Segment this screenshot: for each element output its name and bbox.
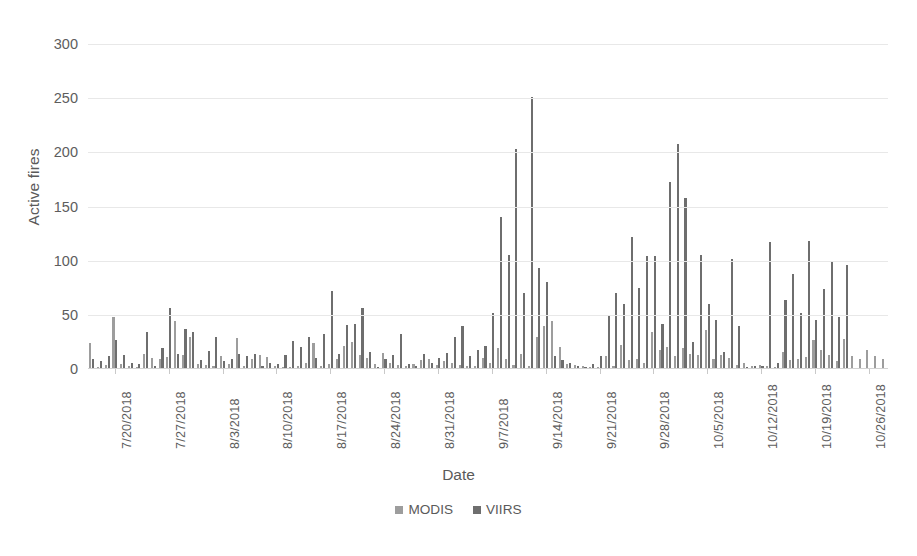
- bar-viirs: [461, 326, 463, 369]
- x-axis-tick-labels: 7/20/20187/27/20188/3/20188/10/20188/17/…: [88, 377, 888, 457]
- legend-item-modis[interactable]: MODIS: [395, 502, 453, 517]
- bar-viirs: [508, 255, 510, 369]
- gridline: [88, 98, 888, 99]
- x-axis-tick-label: 9/7/2018: [497, 398, 511, 449]
- bar-viirs: [292, 341, 294, 369]
- bar-modis: [812, 340, 814, 369]
- bar-viirs: [523, 293, 525, 369]
- x-axis-tick-mark: [384, 369, 385, 374]
- bar-viirs: [677, 144, 679, 369]
- x-axis-tick-label: 10/19/2018: [820, 384, 834, 449]
- x-axis-tick-mark: [115, 369, 116, 374]
- bar-viirs: [169, 308, 171, 369]
- legend-item-viirs[interactable]: VIIRS: [473, 502, 522, 517]
- bar-viirs: [815, 320, 817, 369]
- x-axis-tick-label: 9/14/2018: [551, 391, 565, 449]
- legend-label: VIIRS: [486, 502, 522, 517]
- bar-modis: [828, 355, 830, 369]
- bar-viirs: [708, 304, 710, 369]
- x-axis-tick-mark: [815, 369, 816, 374]
- bar-viirs: [423, 354, 425, 369]
- bar-viirs: [515, 149, 517, 369]
- bar-modis: [112, 317, 114, 369]
- bar-viirs: [308, 337, 310, 370]
- gridline: [88, 315, 888, 316]
- bar-modis: [697, 355, 699, 369]
- x-axis-tick-marks: [88, 369, 888, 375]
- bar-viirs: [669, 182, 671, 369]
- y-axis-title: Active fires: [25, 107, 43, 267]
- bar-viirs: [484, 346, 486, 369]
- x-axis-tick-mark: [276, 369, 277, 374]
- bar-modis: [536, 337, 538, 370]
- plot-area: [88, 44, 888, 369]
- legend-swatch-icon: [395, 506, 403, 514]
- bar-viirs: [638, 288, 640, 369]
- x-axis-tick-mark: [438, 369, 439, 374]
- bar-modis: [659, 350, 661, 370]
- x-axis-tick-mark: [653, 369, 654, 374]
- x-axis-tick-label: 8/10/2018: [281, 391, 295, 449]
- bar-viirs: [161, 348, 163, 369]
- bar-modis: [689, 354, 691, 369]
- bar-modis: [666, 347, 668, 369]
- bar-viirs: [338, 354, 340, 369]
- bar-viirs: [300, 347, 302, 369]
- bar-viirs: [215, 337, 217, 370]
- bar-modis: [259, 355, 261, 369]
- bar-viirs: [792, 274, 794, 369]
- bar-viirs: [608, 315, 610, 369]
- bar-viirs: [361, 308, 363, 369]
- x-axis-tick-mark: [546, 369, 547, 374]
- y-axis-tick-label: 250: [16, 91, 78, 106]
- x-axis-tick-label: 8/31/2018: [443, 391, 457, 449]
- y-axis-tick-label: 0: [16, 362, 78, 377]
- bar-viirs: [354, 324, 356, 370]
- bar-viirs: [369, 352, 371, 369]
- bar-modis: [189, 337, 191, 370]
- bar-modis: [620, 345, 622, 369]
- bar-viirs: [346, 325, 348, 369]
- bar-viirs: [254, 354, 256, 369]
- bar-modis: [543, 326, 545, 369]
- bar-viirs: [477, 350, 479, 370]
- bar-viirs: [192, 332, 194, 369]
- bar-modis: [143, 354, 145, 369]
- x-axis-tick-mark: [761, 369, 762, 374]
- bar-modis: [843, 339, 845, 369]
- bar-modis: [351, 342, 353, 369]
- x-axis-tick-mark: [707, 369, 708, 374]
- bar-viirs: [661, 324, 663, 370]
- bar-modis: [382, 353, 384, 369]
- bar-viirs: [654, 256, 656, 369]
- y-axis-tick-label: 150: [16, 200, 78, 215]
- bar-viirs: [454, 337, 456, 370]
- x-axis-tick-label: 8/24/2018: [389, 391, 403, 449]
- x-axis-tick-mark: [330, 369, 331, 374]
- x-axis-tick-label: 8/3/2018: [228, 398, 242, 449]
- bar-modis: [866, 350, 868, 370]
- bar-modis: [497, 348, 499, 369]
- x-axis-tick-label: 10/26/2018: [874, 384, 888, 449]
- bar-viirs: [400, 334, 402, 369]
- x-axis-tick-mark: [869, 369, 870, 374]
- bar-modis: [312, 343, 314, 369]
- bar-modis: [820, 350, 822, 370]
- bar-viirs: [800, 313, 802, 369]
- bar-viirs: [738, 326, 740, 369]
- bar-modis: [705, 330, 707, 369]
- bar-viirs: [684, 198, 686, 369]
- y-axis-tick-label: 200: [16, 145, 78, 160]
- bar-viirs: [731, 259, 733, 370]
- bar-viirs: [723, 352, 725, 369]
- bar-viirs: [538, 268, 540, 369]
- y-axis-tick-label: 100: [16, 254, 78, 269]
- x-axis-tick-label: 9/28/2018: [658, 391, 672, 449]
- bar-viirs: [446, 353, 448, 369]
- bar-modis: [343, 346, 345, 369]
- bar-viirs: [631, 237, 633, 369]
- bar-modis: [520, 354, 522, 369]
- bar-viirs: [546, 282, 548, 369]
- bar-viirs: [115, 340, 117, 369]
- x-axis-title: Date: [0, 466, 917, 484]
